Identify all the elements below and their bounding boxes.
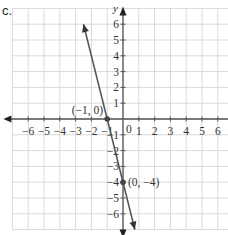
y-axis-down-arrow — [120, 230, 127, 235]
x-axis-left-arrow — [3, 116, 11, 123]
x-tick-label: −5 — [38, 125, 50, 137]
y-tick-label: 2 — [113, 81, 119, 93]
origin-label: 0 — [126, 123, 132, 135]
x-tick-label: −6 — [22, 125, 34, 137]
x-tick-label: −2 — [85, 125, 97, 137]
data-point — [120, 179, 126, 185]
y-axis-label: y — [112, 2, 118, 14]
x-tick-label: 2 — [152, 125, 158, 137]
part-label: c. — [2, 3, 12, 18]
x-tick-label: 6 — [215, 125, 221, 137]
x-tick-label: 1 — [136, 125, 142, 137]
y-tick-label: −4 — [107, 176, 119, 188]
data-point-label: (−1, 0) — [72, 104, 104, 117]
y-tick-label: −6 — [107, 208, 119, 220]
data-point-label: (0, −4) — [128, 176, 160, 189]
y-tick-label: −5 — [107, 192, 119, 204]
y-tick-label: −2 — [107, 145, 119, 157]
y-axis-up-arrow — [120, 6, 127, 15]
y-tick-label: 1 — [113, 97, 119, 109]
y-tick-label: 6 — [113, 18, 119, 30]
x-tick-label: 5 — [199, 125, 205, 137]
y-tick-label: 4 — [113, 50, 119, 62]
x-tick-label: −4 — [54, 125, 66, 137]
data-point — [104, 116, 110, 122]
x-tick-label: −3 — [69, 125, 81, 137]
y-tick-label: 5 — [113, 34, 119, 46]
y-tick-label: 3 — [113, 66, 119, 78]
coordinate-plane: c. y −6−5−4−3−2−1123456−6−5−4−3−2−112345… — [0, 0, 228, 235]
x-tick-label: 4 — [183, 125, 189, 137]
x-tick-label: 3 — [168, 125, 174, 137]
